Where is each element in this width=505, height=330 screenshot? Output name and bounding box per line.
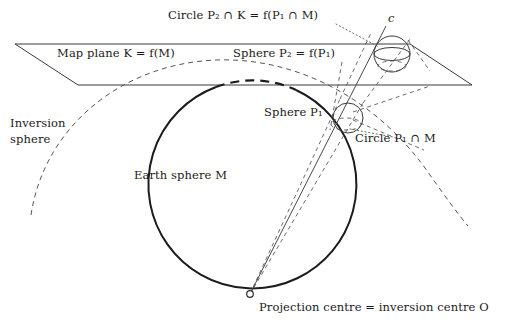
label-inversion-sphere-line1: Inversion (10, 116, 66, 132)
label-line-c: c (388, 11, 395, 27)
map-plane-right-edge (410, 44, 472, 85)
ray-tangent-left (250, 99, 340, 294)
ray-spread-right-upper (353, 86, 430, 112)
label-inversion-sphere-line2: sphere (10, 132, 66, 148)
sphere-P2-shape (374, 36, 410, 72)
line-c (250, 26, 386, 294)
earth-sphere-visible-arc (148, 87, 356, 288)
sphere-P2-outline (374, 36, 410, 72)
label-sphere-p2: Sphere P₂ = f(P₁) (233, 46, 335, 62)
projection-centre-point (247, 291, 254, 298)
label-earth-sphere: Earth sphere M (134, 168, 227, 184)
label-projection-centre: Projection centre = inversion centre O (259, 300, 489, 316)
label-inversion-sphere: Inversion sphere (10, 116, 66, 147)
label-map-plane: Map plane K = f(M) (57, 46, 175, 62)
cone-edge-upper-left (340, 33, 371, 99)
label-circle-p1-cap-m: Circle P₁ ∩ M (355, 131, 436, 147)
figure-canvas: Circle P₂ ∩ K = f(P₁ ∩ M) c Map plane K … (0, 0, 505, 330)
circle-P2-cap-K-ellipse (374, 48, 410, 61)
label-sphere-p1: Sphere P₁ (264, 105, 323, 121)
projection-rays (250, 33, 430, 294)
label-circle-p2-cap-k: Circle P₂ ∩ K = f(P₁ ∩ M) (168, 8, 318, 24)
circle-P1-cap-M-ellipse (331, 118, 361, 130)
ray-tangent-right (250, 103, 363, 294)
